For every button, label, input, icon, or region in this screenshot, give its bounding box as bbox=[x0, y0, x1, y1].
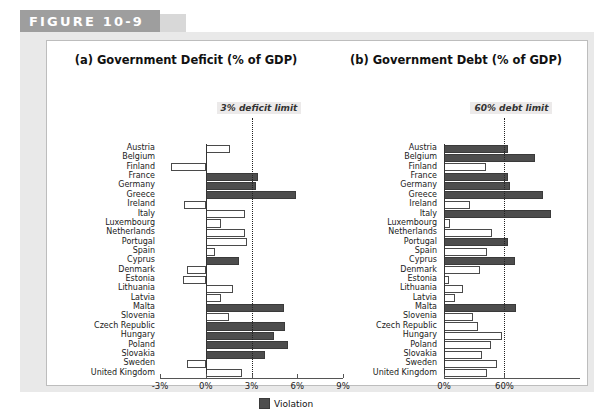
bar bbox=[206, 341, 288, 349]
category-label: Luxembourg bbox=[47, 218, 155, 227]
legend-violation-label: Violation bbox=[274, 399, 313, 409]
bar bbox=[206, 229, 246, 237]
x-tick-label: -3% bbox=[152, 381, 169, 391]
category-label: Netherlands bbox=[47, 227, 155, 236]
bar bbox=[444, 266, 480, 274]
bar bbox=[206, 182, 256, 190]
bar bbox=[206, 332, 275, 340]
category-label: France bbox=[47, 171, 155, 180]
category-label: Austria bbox=[325, 143, 437, 152]
category-label: Italy bbox=[325, 209, 437, 218]
panel-government-debt: (b) Government Debt (% of GDP) 60% debt … bbox=[325, 41, 587, 385]
category-label: Portugal bbox=[325, 237, 437, 246]
x-axis bbox=[444, 378, 580, 379]
category-label: Austria bbox=[47, 143, 155, 152]
figure-tab: FIGURE 10-9 bbox=[20, 10, 160, 32]
bar bbox=[444, 229, 492, 237]
bar bbox=[444, 322, 478, 330]
category-label: Estonia bbox=[325, 274, 437, 283]
panel-a-title: (a) Government Deficit (% of GDP) bbox=[47, 53, 325, 67]
bar bbox=[444, 238, 508, 246]
x-tick-label: 3% bbox=[245, 381, 259, 391]
x-tick-label: 0% bbox=[199, 381, 213, 391]
bar bbox=[444, 201, 470, 209]
threshold-line bbox=[252, 118, 253, 378]
deficit-limit-annotation: 3% deficit limit bbox=[217, 102, 302, 114]
category-label: Poland bbox=[47, 340, 155, 349]
bar bbox=[444, 332, 502, 340]
bar bbox=[444, 154, 535, 162]
bar bbox=[444, 191, 543, 199]
category-label: Hungary bbox=[47, 330, 155, 339]
bar bbox=[206, 304, 284, 312]
bar bbox=[187, 360, 205, 368]
category-label: Greece bbox=[47, 190, 155, 199]
bar bbox=[444, 313, 473, 321]
category-label: Estonia bbox=[47, 274, 155, 283]
x-tick-label: 0% bbox=[437, 381, 451, 391]
bar bbox=[444, 285, 463, 293]
bar bbox=[444, 248, 487, 256]
x-tick bbox=[252, 374, 253, 378]
bar bbox=[444, 210, 551, 218]
x-tick-label: 6% bbox=[291, 381, 305, 391]
bar bbox=[206, 294, 221, 302]
bar bbox=[444, 182, 510, 190]
category-label: Sweden bbox=[47, 358, 155, 367]
bar bbox=[206, 210, 246, 218]
bar bbox=[206, 145, 230, 153]
category-label: Czech Republic bbox=[325, 321, 437, 330]
bar bbox=[444, 341, 491, 349]
category-label: Portugal bbox=[47, 237, 155, 246]
bar bbox=[206, 285, 233, 293]
category-label: Spain bbox=[325, 246, 437, 255]
figure-canvas: (a) Government Deficit (% of GDP) 3% def… bbox=[46, 40, 588, 386]
category-label: Denmark bbox=[325, 265, 437, 274]
zero-line bbox=[444, 144, 445, 378]
category-label: Finland bbox=[325, 162, 437, 171]
bar bbox=[206, 248, 215, 256]
category-label: Cyprus bbox=[47, 255, 155, 264]
debt-limit-annotation: 60% debt limit bbox=[470, 102, 552, 114]
bar bbox=[206, 257, 240, 265]
category-label: Italy bbox=[47, 209, 155, 218]
category-label: Ireland bbox=[325, 199, 437, 208]
category-label: Lithuania bbox=[47, 283, 155, 292]
figure-number-label: FIGURE 10-9 bbox=[20, 14, 144, 29]
category-label: Lithuania bbox=[325, 283, 437, 292]
category-label: France bbox=[325, 171, 437, 180]
category-label: Luxembourg bbox=[325, 218, 437, 227]
category-label: Spain bbox=[47, 246, 155, 255]
category-label: Latvia bbox=[325, 293, 437, 302]
bar bbox=[171, 163, 206, 171]
bar bbox=[444, 145, 508, 153]
bar bbox=[206, 369, 243, 377]
category-label: Greece bbox=[325, 190, 437, 199]
panel-government-deficit: (a) Government Deficit (% of GDP) 3% def… bbox=[47, 41, 325, 385]
bar bbox=[444, 351, 482, 359]
category-axis: AustriaBelgiumFinlandFranceGermanyGreece… bbox=[325, 143, 437, 377]
x-tick bbox=[206, 374, 207, 378]
bar bbox=[206, 322, 285, 330]
bar bbox=[444, 173, 508, 181]
figure-root: FIGURE 10-9 (a) Government Deficit (% of… bbox=[0, 0, 614, 410]
category-label: Malta bbox=[325, 302, 437, 311]
category-label: Poland bbox=[325, 340, 437, 349]
bar bbox=[206, 351, 265, 359]
x-axis bbox=[160, 378, 343, 379]
category-label: Latvia bbox=[47, 293, 155, 302]
category-label: Slovakia bbox=[47, 349, 155, 358]
threshold-line bbox=[504, 118, 505, 378]
bar bbox=[183, 276, 206, 284]
x-tick bbox=[160, 374, 161, 378]
category-label: United Kingdom bbox=[325, 368, 437, 377]
legend-violation-swatch bbox=[259, 398, 270, 409]
category-label: Sweden bbox=[325, 358, 437, 367]
category-label: United Kingdom bbox=[47, 368, 155, 377]
x-tick bbox=[504, 374, 505, 378]
category-label: Cyprus bbox=[325, 255, 437, 264]
category-axis: AustriaBelgiumFinlandFranceGermanyGreece… bbox=[47, 143, 155, 377]
category-label: Slovakia bbox=[325, 349, 437, 358]
bar bbox=[444, 369, 487, 377]
category-label: Denmark bbox=[47, 265, 155, 274]
